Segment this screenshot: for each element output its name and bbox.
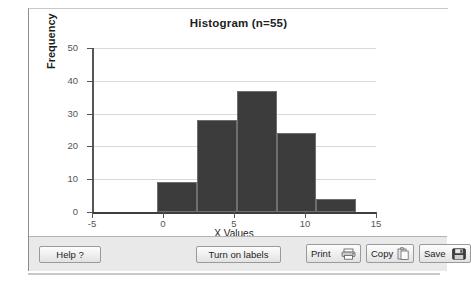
window-bottom-edge	[28, 273, 440, 275]
y-tick-label: 20	[38, 140, 78, 151]
applet-window: Histogram (n=55) Frequency 01020304050 -…	[28, 8, 448, 271]
histogram-bar	[237, 91, 277, 212]
y-tick	[87, 48, 93, 49]
save-button[interactable]: Save	[419, 244, 471, 263]
gridline	[92, 81, 376, 82]
plot-area: 01020304050 -5051015	[92, 48, 376, 213]
histogram-bar	[157, 182, 197, 212]
y-tick	[87, 146, 93, 147]
y-tick-label: 50	[38, 42, 78, 53]
histogram-bar	[316, 199, 356, 212]
gridline	[92, 114, 376, 115]
printer-icon	[341, 248, 356, 260]
y-axis-line	[92, 48, 94, 214]
histogram-bar	[197, 120, 237, 212]
print-button[interactable]: Print	[306, 244, 361, 263]
clipboard-icon	[397, 247, 409, 260]
y-tick-label: 30	[38, 108, 78, 119]
chart-panel: Histogram (n=55) Frequency 01020304050 -…	[29, 9, 448, 236]
gridline	[92, 48, 376, 49]
save-button-label: Save	[424, 248, 446, 259]
floppy-disk-icon	[452, 248, 466, 260]
bottom-toolbar: Help ? Turn on labels Print Copy	[29, 236, 447, 271]
y-tick-label: 0	[38, 206, 78, 217]
copy-button-label: Copy	[371, 248, 393, 259]
y-tick	[87, 179, 93, 180]
y-tick-label: 10	[38, 173, 78, 184]
help-button[interactable]: Help ?	[39, 246, 101, 263]
chart-title: Histogram (n=55)	[29, 17, 448, 29]
copy-button[interactable]: Copy	[366, 244, 414, 263]
histogram-bar	[277, 133, 317, 212]
y-tick	[87, 114, 93, 115]
help-button-label: Help ?	[56, 249, 83, 260]
print-button-label: Print	[311, 248, 331, 259]
y-tick-label: 40	[38, 75, 78, 86]
turn-on-labels-button[interactable]: Turn on labels	[196, 246, 281, 263]
turn-on-labels-label: Turn on labels	[209, 249, 269, 260]
y-tick	[87, 81, 93, 82]
